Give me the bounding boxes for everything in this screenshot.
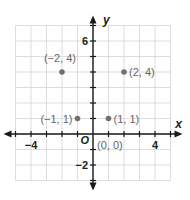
x-axis-arrow-right-icon	[175, 131, 183, 138]
data-point-label: (0, 0)	[97, 139, 123, 151]
x-tick-label: −4	[25, 139, 38, 151]
data-point	[106, 116, 112, 122]
data-point	[59, 69, 65, 75]
data-point	[75, 116, 81, 122]
data-point-label: (−2, 4)	[44, 52, 76, 64]
y-axis-label: y	[102, 13, 111, 27]
data-point	[121, 69, 127, 75]
y-tick-label: 6	[82, 35, 88, 47]
x-axis-label: x	[174, 117, 183, 131]
data-point-label: (−1, 1)	[40, 113, 72, 125]
y-axis-arrow-up-icon	[90, 16, 97, 24]
origin-label: O	[80, 134, 89, 146]
y-tick-label: −2	[75, 159, 88, 171]
points: (−2, 4)(2, 4)(−1, 1)(1, 1)(0, 0)	[40, 52, 154, 151]
x-tick-label: 4	[152, 139, 159, 151]
y-axis-arrow-down-icon	[90, 183, 97, 191]
data-point-label: (1, 1)	[114, 113, 140, 125]
data-point-label: (2, 4)	[129, 66, 155, 78]
x-axis-arrow-left-icon	[4, 131, 12, 138]
coordinate-plane: −446−2 (−2, 4)(2, 4)(−1, 1)(1, 1)(0, 0) …	[0, 0, 190, 200]
